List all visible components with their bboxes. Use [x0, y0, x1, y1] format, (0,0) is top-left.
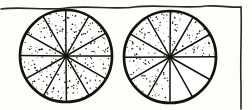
stipple-dot	[167, 28, 168, 29]
stipple-dot	[95, 53, 96, 54]
stipple-dot	[157, 69, 158, 70]
stipple-dot	[57, 32, 59, 34]
stipple-dot	[72, 92, 74, 94]
stipple-dot	[149, 63, 150, 64]
stipple-dot	[68, 17, 69, 18]
stipple-dot	[24, 61, 25, 62]
stipple-dot	[52, 97, 53, 98]
stipple-dot	[24, 42, 25, 43]
stipple-dot	[153, 81, 154, 82]
stipple-dot	[38, 78, 39, 79]
stipple-dot	[141, 29, 142, 30]
stipple-dot	[162, 85, 163, 86]
stipple-dot	[57, 45, 58, 46]
stipple-dot	[150, 17, 151, 18]
stipple-dot	[96, 75, 97, 76]
stipple-dot	[56, 63, 57, 64]
stipple-dot	[152, 20, 153, 21]
stipple-dot	[129, 40, 130, 41]
stipple-dot	[100, 82, 101, 83]
stipple-dot	[86, 82, 88, 84]
stipple-dot	[56, 13, 57, 14]
stipple-dot	[202, 50, 203, 51]
stipple-dot	[104, 43, 105, 44]
stipple-dot	[139, 47, 140, 48]
stipple-dot	[41, 23, 42, 24]
stipple-dot	[93, 51, 95, 53]
stipple-dot	[145, 63, 147, 65]
stipple-dot	[198, 46, 199, 47]
stipple-dot	[179, 19, 180, 20]
stipple-dot	[142, 91, 143, 92]
stipple-dot	[55, 59, 56, 60]
stipple-dot	[175, 49, 176, 50]
stipple-dot	[34, 67, 36, 69]
stipple-dot	[105, 73, 106, 74]
stipple-dot	[64, 81, 66, 83]
stipple-dot	[159, 94, 160, 95]
stipple-dot	[74, 24, 75, 25]
stipple-dot	[167, 77, 168, 78]
stipple-dot	[189, 37, 190, 38]
stipple-dot	[203, 53, 204, 54]
stipple-dot	[83, 70, 84, 71]
stipple-dot	[149, 85, 151, 87]
stipple-dot	[208, 42, 210, 44]
stipple-dot	[76, 57, 78, 59]
stipple-dot	[39, 73, 40, 74]
stipple-dot	[61, 31, 62, 32]
stipple-dot	[48, 23, 49, 24]
stipple-dot	[75, 66, 76, 67]
stipple-dot	[70, 67, 72, 69]
stipple-dot	[55, 48, 56, 49]
stipple-dot	[29, 49, 31, 51]
stipple-dot	[156, 76, 157, 77]
stipple-dot	[47, 93, 48, 94]
stipple-dot	[142, 32, 143, 33]
stipple-dot	[164, 40, 165, 41]
stipple-dot	[142, 28, 143, 29]
stipple-dot	[103, 38, 104, 39]
stipple-dot	[51, 34, 52, 35]
stipple-dot	[31, 65, 32, 66]
stipple-dot	[58, 15, 59, 16]
stipple-dot	[50, 53, 51, 54]
stipple-dot	[93, 36, 94, 37]
stipple-dot	[60, 77, 61, 78]
stipple-dot	[76, 85, 77, 86]
stipple-dot	[60, 26, 61, 27]
stipple-dot	[92, 22, 94, 24]
stipple-dot	[64, 71, 65, 72]
stipple-dot	[73, 31, 74, 32]
stipple-dot	[190, 41, 191, 42]
stipple-dot	[63, 20, 64, 21]
stipple-dot	[213, 54, 214, 55]
stipple-dot	[81, 74, 82, 75]
stipple-dot	[158, 95, 159, 96]
stipple-dot	[87, 31, 88, 32]
stipple-dot	[96, 87, 97, 88]
stipple-dot	[48, 18, 49, 19]
stipple-dot	[103, 63, 104, 64]
stipple-dot	[59, 30, 61, 32]
stipple-dot	[163, 18, 164, 19]
stipple-dot	[141, 75, 142, 76]
stipple-dot	[98, 31, 99, 32]
stipple-dot	[166, 14, 167, 15]
stipple-dot	[146, 78, 147, 79]
stipple-dot	[74, 37, 76, 39]
stipple-dot	[136, 65, 137, 66]
stipple-dot	[197, 47, 198, 48]
stipple-dot	[174, 43, 175, 44]
stipple-dot	[28, 69, 30, 71]
stipple-dot	[139, 58, 141, 60]
stipple-dot	[99, 80, 100, 81]
stipple-dot	[154, 91, 155, 92]
stipple-dot	[87, 22, 88, 23]
stipple-dot	[32, 60, 33, 61]
stipple-dot	[128, 51, 129, 52]
stipple-dot	[93, 62, 94, 63]
stipple-dot	[77, 72, 78, 73]
stipple-dot	[35, 70, 36, 71]
stipple-dot	[163, 33, 164, 34]
